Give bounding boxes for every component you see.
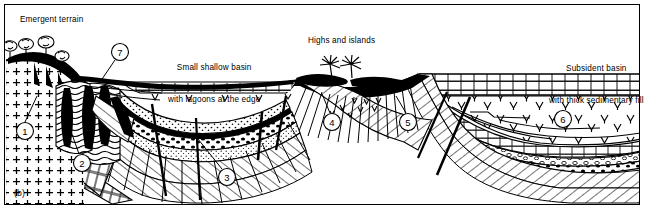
callout-4: 4	[324, 114, 341, 131]
callout-3: 3	[219, 169, 236, 186]
callout-2: 2	[74, 155, 91, 172]
callout-2-label: 2	[79, 158, 84, 169]
callout-5-label: 5	[405, 117, 410, 128]
label-subsident-line1: Subsident basin	[549, 64, 644, 75]
callout-3-label: 3	[224, 172, 229, 183]
panel-label: (b)	[14, 188, 25, 199]
label-subsident-basin: Subsident basin with thick sedimentary f…	[549, 43, 644, 127]
label-emergent-terrain: Emergent terrain	[20, 15, 83, 26]
callout-1-label: 1	[22, 126, 27, 137]
callout-1: 1	[17, 123, 34, 140]
label-small-basin-line1: Small shallow basin	[168, 63, 260, 74]
label-small-shallow-basin: Small shallow basin with lagoons at the …	[168, 42, 260, 126]
geological-cross-section-figure: 1 2 3 4 5	[0, 0, 648, 213]
callout-5: 5	[400, 114, 417, 131]
callout-4-label: 4	[329, 117, 334, 128]
label-subsident-line2: with thick sedimentary fill	[549, 96, 644, 107]
label-highs-and-islands: Highs and islands	[308, 36, 375, 47]
label-small-basin-line2: with lagoons at the edge	[168, 95, 260, 106]
